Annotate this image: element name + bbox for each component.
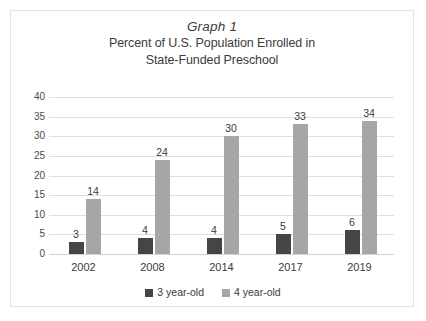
bar-2017-4-year-old <box>293 124 308 254</box>
bar-2008-4-year-old <box>155 160 170 254</box>
bar-2014-4-year-old <box>224 136 239 254</box>
y-axis-tick-0: 0 <box>19 249 45 259</box>
y-axis-tick-35: 35 <box>19 112 45 122</box>
gridline-0 <box>49 254 394 255</box>
x-axis-tick-2008: 2008 <box>118 261 188 273</box>
x-axis-tick-2002: 2002 <box>49 261 119 273</box>
bar-2019-3-year-old <box>345 230 360 254</box>
bar-group-2002: 314 <box>61 97 106 254</box>
y-axis-tick-10: 10 <box>19 210 45 220</box>
legend-entry-4-year-old[interactable]: 4 year-old <box>222 287 281 298</box>
bar-value-label-2002-4-year-old: 14 <box>78 186 108 197</box>
bar-group-2019: 634 <box>337 97 382 254</box>
y-axis-tick-25: 25 <box>19 151 45 161</box>
legend-label: 4 year-old <box>234 287 281 298</box>
chart-plot-area: 314424430533634 <box>49 97 394 254</box>
bar-group-2008: 424 <box>130 97 175 254</box>
bar-value-label-2019-4-year-old: 34 <box>354 108 384 119</box>
y-axis-tick-20: 20 <box>19 171 45 181</box>
bar-2002-4-year-old <box>86 199 101 254</box>
y-axis-tick-15: 15 <box>19 190 45 200</box>
bar-2019-4-year-old <box>362 121 377 254</box>
legend-swatch-icon <box>145 289 153 297</box>
y-axis-tick-labels: 0510152025303540 <box>19 97 45 254</box>
y-axis-tick-40: 40 <box>19 92 45 102</box>
y-axis-tick-5: 5 <box>19 229 45 239</box>
bar-2017-3-year-old <box>276 234 291 254</box>
bar-value-label-2014-4-year-old: 30 <box>216 123 246 134</box>
x-axis-tick-2014: 2014 <box>187 261 257 273</box>
bar-2014-3-year-old <box>207 238 222 254</box>
legend-swatch-icon <box>222 289 230 297</box>
bar-value-label-2008-4-year-old: 24 <box>147 147 177 158</box>
legend-entry-3-year-old[interactable]: 3 year-old <box>145 287 204 298</box>
chart-plot-wrapper: 0510152025303540 314424430533634 3 year-… <box>11 11 415 308</box>
chart-figure-card: Graph 1 Percent of U.S. Population Enrol… <box>10 10 414 307</box>
bar-group-2017: 533 <box>268 97 313 254</box>
bar-value-label-2017-4-year-old: 33 <box>285 111 315 122</box>
bar-2008-3-year-old <box>138 238 153 254</box>
x-axis-tick-2019: 2019 <box>325 261 395 273</box>
bar-2002-3-year-old <box>69 242 84 254</box>
legend-label: 3 year-old <box>157 287 204 298</box>
chart-legend: 3 year-old4 year-old <box>11 287 415 298</box>
y-axis-tick-30: 30 <box>19 131 45 141</box>
x-axis-tick-2017: 2017 <box>256 261 326 273</box>
bar-group-2014: 430 <box>199 97 244 254</box>
